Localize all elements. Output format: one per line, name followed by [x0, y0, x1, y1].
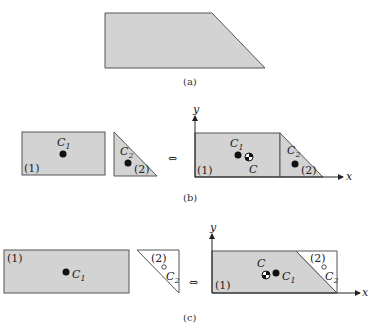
composite-centroid-c-icon [245, 153, 253, 161]
caption-a: (a) [183, 76, 197, 87]
combined-c2-label: C2 [287, 144, 301, 159]
equivalence-symbol: ⇔ [168, 152, 177, 165]
combined-c1-dot [273, 270, 280, 277]
composite-centroid-c-icon [262, 271, 270, 279]
combined-c1-dot [235, 152, 242, 159]
centroid-c2-hollow [162, 265, 166, 269]
equivalence-symbol: ⇔ [189, 276, 198, 289]
part-2-label: (2) [151, 252, 167, 265]
centroid-c1-dot [60, 151, 67, 158]
combined-c-label: C [257, 257, 266, 270]
x-axis-label: x [346, 170, 353, 183]
combined-part-1-label: (1) [197, 164, 213, 177]
combined-c-label: C [249, 163, 258, 176]
caption-b: (b) [183, 192, 197, 203]
centroid-c1-dot [63, 269, 70, 276]
part-1-label: (1) [24, 162, 40, 175]
panel-b: (1) C1 C2 (2) ⇔ y x (1) C1 C C2 (2) (b) [22, 103, 353, 203]
y-axis-label: y [209, 221, 217, 234]
panel-c: (1) C1 (2) C2 ⇔ y x (1) C C1 (2) C2 (c) [4, 221, 369, 323]
c2-label: C2 [120, 145, 134, 160]
panel-a: (a) [105, 13, 265, 87]
combined-part-1-label: (1) [215, 279, 231, 292]
combined-part-2-label: (2) [310, 252, 326, 265]
x-axis-label: x [362, 286, 369, 299]
centroid-c2-dot [125, 160, 132, 167]
combined-c2-hollow [322, 265, 326, 269]
part-1-label: (1) [7, 252, 23, 265]
part-2-label: (2) [134, 163, 150, 176]
caption-c: (c) [183, 312, 197, 323]
trapezoid-shape [105, 13, 265, 68]
combined-c2-dot [292, 161, 299, 168]
combined-part-2-label: (2) [301, 164, 317, 177]
composite-area-figure: (a) (1) C1 C2 (2) ⇔ y x (1) C1 C C2 (2) … [0, 0, 380, 333]
y-axis-label: y [192, 103, 200, 116]
